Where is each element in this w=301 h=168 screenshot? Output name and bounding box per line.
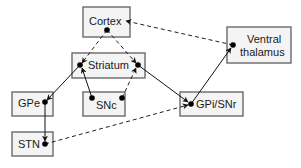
ventral-thalamus-dot: [230, 42, 236, 48]
edge-striatum-to-gpe: [47, 65, 80, 100]
striatum-left-dot: [77, 62, 83, 68]
snc-left-dot: [89, 95, 95, 101]
snc-label: SNc: [96, 99, 117, 111]
basal-ganglia-diagram: Cortex Striatum Ventral thalamus GPe SNc…: [0, 0, 301, 168]
cortex-output-dot: [104, 27, 110, 33]
stn-label: STN: [18, 138, 40, 150]
ventral-thalamus-label-line2: thalamus: [240, 46, 285, 58]
snc-right-dot: [119, 95, 125, 101]
stn-dot: [42, 141, 48, 147]
node-striatum: Striatum: [72, 53, 145, 78]
ventral-thalamus-label-line1: Ventral: [247, 33, 281, 45]
striatum-right-dot: [135, 62, 141, 68]
gpe-label: GPe: [18, 97, 40, 109]
node-snc: SNc: [83, 92, 125, 116]
striatum-label: Striatum: [88, 59, 129, 71]
gpi-snr-label: GPi/SNr: [196, 98, 237, 110]
cortex-label: Cortex: [89, 15, 122, 27]
node-ventral-thalamus: Ventral thalamus: [227, 27, 291, 63]
gpe-dot: [42, 99, 48, 105]
gpi-snr-dot: [188, 101, 194, 107]
edge-ventral-thalamus-to-cortex: [126, 21, 233, 45]
edge-striatum-to-gpi-snr: [138, 65, 188, 102]
